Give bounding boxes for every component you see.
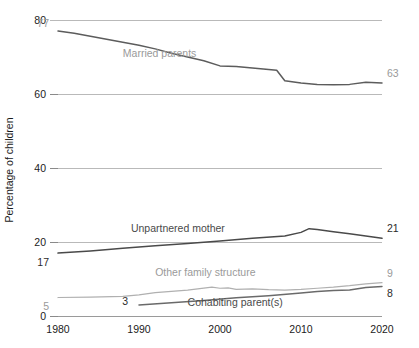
series-label-married-parents: Married parents bbox=[123, 47, 197, 59]
end-value-label-cohabiting-parent-s: 8 bbox=[387, 287, 393, 299]
series-labels-group: Married parentsUnpartnered motherOther f… bbox=[123, 47, 283, 308]
y-tick-label-60: 60 bbox=[34, 88, 46, 100]
x-tick-label-2000: 2000 bbox=[208, 323, 232, 335]
x-tick-label-2010: 2010 bbox=[289, 323, 313, 335]
start-value-label-married-parents: 77 bbox=[37, 17, 49, 29]
y-axis-tick-labels: 020406080 bbox=[34, 14, 46, 322]
series-label-other-family-structure: Other family structure bbox=[155, 266, 256, 278]
chart-canvas: 020406080 19801990200020102020 Married p… bbox=[0, 0, 419, 348]
start-value-label-unpartnered-mother: 17 bbox=[37, 256, 49, 268]
y-axis-title: Percentage of children bbox=[3, 117, 15, 222]
x-tick-label-2020: 2020 bbox=[370, 323, 394, 335]
x-axis-tick-labels: 19801990200020102020 bbox=[46, 323, 394, 335]
x-tick-label-1980: 1980 bbox=[46, 323, 70, 335]
line-chart: 020406080 19801990200020102020 Married p… bbox=[0, 0, 419, 348]
end-value-label-unpartnered-mother: 21 bbox=[387, 222, 399, 234]
series-line-married-parents bbox=[58, 31, 382, 85]
end-value-label-other-family-structure: 9 bbox=[387, 267, 393, 279]
series-label-cohabiting-parent-s: Cohabiting parent(s) bbox=[188, 296, 283, 308]
y-tick-label-0: 0 bbox=[40, 310, 46, 322]
y-tick-label-40: 40 bbox=[34, 162, 46, 174]
x-tick-label-1990: 1990 bbox=[127, 323, 151, 335]
series-label-unpartnered-mother: Unpartnered mother bbox=[131, 222, 225, 234]
start-value-label-cohabiting-parent-s: 3 bbox=[122, 295, 128, 307]
end-value-label-married-parents: 63 bbox=[387, 67, 399, 79]
y-tick-label-20: 20 bbox=[34, 236, 46, 248]
start-value-label-other-family-structure: 5 bbox=[43, 300, 49, 312]
